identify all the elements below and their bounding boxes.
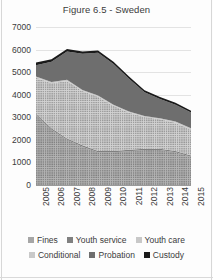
legend-label: Conditional — [38, 250, 81, 260]
legend-label: Fines — [37, 235, 58, 245]
legend-item-youth-care[interactable]: Youth care — [136, 235, 185, 245]
legend-item-youth-service[interactable]: Youth service — [67, 235, 127, 245]
legend-item-probation[interactable]: Probation — [89, 250, 134, 260]
legend-label: Probation — [98, 250, 134, 260]
y-tick-3000: 3000 — [12, 112, 31, 122]
x-tick-2013: 2013 — [165, 187, 175, 206]
square-solid-swatch-icon — [29, 252, 35, 258]
x-tick-2012: 2012 — [149, 187, 159, 206]
square-solid-swatch-icon — [67, 237, 73, 243]
y-tick-4000: 4000 — [12, 90, 31, 100]
square-dotted-swatch-icon — [28, 237, 34, 243]
legend-label: Youth service — [76, 235, 127, 245]
plot-area — [36, 27, 191, 185]
x-axis-labels: 2005200620072008200920102011201220132014… — [36, 187, 191, 227]
figure-container: Figure 6.5 - Sweden 01000200030004000500… — [0, 0, 213, 280]
x-tick-2005: 2005 — [41, 187, 51, 206]
x-tick-2007: 2007 — [72, 187, 82, 206]
x-axis-line — [36, 185, 191, 186]
legend-label: Youth care — [145, 235, 185, 245]
x-tick-2008: 2008 — [87, 187, 97, 206]
y-tick-2000: 2000 — [12, 135, 31, 145]
x-tick-2010: 2010 — [118, 187, 128, 206]
y-tick-0: 0 — [26, 180, 31, 190]
x-tick-2006: 2006 — [56, 187, 66, 206]
y-tick-7000: 7000 — [12, 22, 31, 32]
x-tick-2014: 2014 — [180, 187, 190, 206]
y-tick-6000: 6000 — [12, 45, 31, 55]
chart-legend: FinesYouth serviceYouth care Conditional… — [0, 232, 213, 274]
y-tick-1000: 1000 — [12, 157, 31, 167]
y-tick-5000: 5000 — [12, 67, 31, 77]
x-tick-2015: 2015 — [196, 187, 206, 206]
legend-item-fines[interactable]: Fines — [28, 235, 58, 245]
bottom-rule — [0, 277, 213, 278]
legend-row-1: FinesYouth serviceYouth care — [0, 232, 213, 247]
square-solid-swatch-icon — [89, 252, 95, 258]
stacked-area-series — [36, 27, 191, 185]
legend-item-custody[interactable]: Custody — [144, 250, 184, 260]
x-tick-2011: 2011 — [134, 187, 144, 205]
y-axis-labels: 01000200030004000500060007000 — [0, 0, 34, 185]
square-dotted-swatch-icon — [136, 237, 142, 243]
x-tick-2009: 2009 — [103, 187, 113, 206]
legend-item-conditional[interactable]: Conditional — [29, 250, 81, 260]
legend-row-2: ConditionalProbationCustody — [0, 247, 213, 262]
legend-label: Custody — [153, 250, 184, 260]
square-solid-swatch-icon — [144, 252, 150, 258]
